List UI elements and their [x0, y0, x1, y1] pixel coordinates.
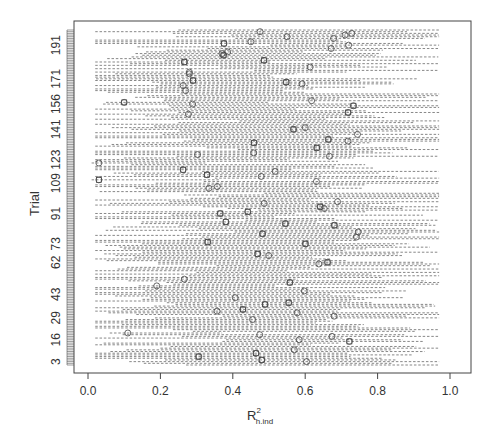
- forest-plot: 0.00.20.40.60.81.0 316294362739110912314…: [0, 0, 489, 442]
- y-tick-label: 43: [49, 287, 63, 301]
- x-axis: 0.00.20.40.60.81.0: [80, 373, 459, 398]
- trial-intervals: [92, 30, 440, 365]
- y-tick-label: 191: [49, 35, 63, 55]
- x-tick-label: 0.6: [297, 384, 314, 398]
- y-tick-label: 3: [49, 358, 63, 365]
- y-axis-label: Trial: [27, 184, 42, 224]
- x-tick-label: 0.2: [152, 384, 169, 398]
- y-tick-label: 91: [49, 206, 63, 220]
- y-tick-label: 156: [49, 94, 63, 114]
- y-tick-label: 29: [49, 311, 63, 325]
- x-tick-label: 0.0: [80, 384, 97, 398]
- y-tick-label: 141: [49, 119, 63, 139]
- x-tick-label: 0.8: [369, 384, 386, 398]
- x-axis-label-sub: h.ind: [256, 417, 273, 426]
- x-axis-label-main: R: [247, 408, 256, 423]
- y-tick-label: 171: [49, 68, 63, 88]
- y-tick-label: 16: [49, 333, 63, 347]
- x-axis-label-sup: 2: [256, 406, 260, 415]
- x-axis-label: R2h.ind: [247, 408, 278, 426]
- x-tick-label: 0.4: [224, 384, 241, 398]
- y-axis: 3162943627391109123141156171191: [49, 30, 74, 365]
- x-tick-label: 1.0: [442, 384, 459, 398]
- y-tick-label: 123: [49, 149, 63, 169]
- y-tick-label: 73: [49, 237, 63, 251]
- y-tick-label: 109: [49, 173, 63, 193]
- y-tick-label: 62: [49, 255, 63, 269]
